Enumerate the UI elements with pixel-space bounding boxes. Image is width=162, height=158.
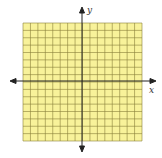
coordinate-plane: y x <box>0 0 162 158</box>
y-axis-label: y <box>86 5 93 15</box>
x-axis-right-arrow-icon <box>150 79 156 84</box>
x-axis-left-arrow-icon <box>10 79 16 84</box>
x-axis-label: x <box>149 85 154 95</box>
y-axis-up-arrow-icon <box>80 7 85 13</box>
y-axis-down-arrow-icon <box>80 146 85 152</box>
